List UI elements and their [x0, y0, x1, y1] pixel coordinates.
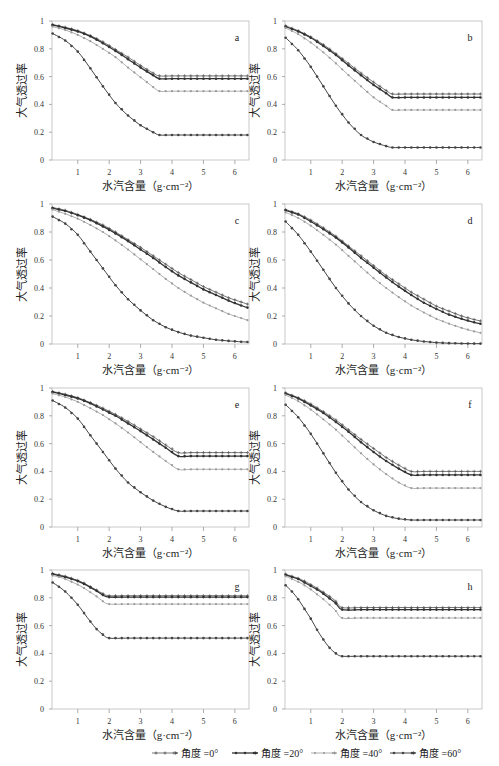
plot-frame	[285, 21, 482, 160]
data-point	[416, 109, 418, 111]
plot-frame	[285, 204, 482, 344]
x-axis-title: 水汽含量（g·cm⁻²）	[335, 179, 433, 192]
data-point	[429, 109, 431, 111]
data-point	[429, 341, 432, 344]
legend-arrow	[413, 751, 416, 755]
data-point	[83, 583, 86, 586]
data-point	[303, 57, 306, 60]
data-point	[58, 27, 60, 29]
data-point	[284, 209, 287, 212]
data-point	[328, 95, 331, 98]
series-line	[286, 393, 481, 472]
data-point	[64, 39, 67, 42]
data-point	[329, 423, 331, 425]
data-point	[96, 44, 98, 46]
data-point	[146, 252, 149, 255]
data-point	[303, 33, 306, 36]
data-point	[58, 211, 60, 213]
data-point	[404, 518, 407, 521]
data-point	[95, 76, 98, 79]
data-point	[240, 510, 243, 513]
data-point	[152, 319, 155, 322]
x-axis-title: 水汽含量（g·cm⁻²）	[102, 546, 200, 559]
data-point	[385, 617, 387, 619]
data-point	[196, 510, 199, 513]
data-point	[95, 259, 98, 262]
data-point	[202, 510, 205, 513]
data-point	[347, 255, 349, 257]
data-point	[190, 90, 192, 92]
x-tick-label: 3	[372, 717, 376, 726]
data-point	[479, 332, 481, 334]
data-point	[158, 603, 160, 605]
data-point	[435, 608, 438, 611]
data-point	[164, 637, 167, 640]
data-point	[234, 302, 237, 305]
data-point	[467, 608, 470, 611]
data-point	[291, 28, 294, 31]
data-point	[64, 590, 67, 593]
series-3	[51, 215, 248, 343]
data-point	[416, 146, 419, 149]
data-point	[102, 451, 105, 454]
y-tick-label: 0.8	[267, 594, 277, 603]
data-point	[183, 468, 185, 470]
data-point	[328, 232, 331, 235]
y-tick-label: 0	[40, 340, 44, 349]
legend-marker	[332, 752, 334, 754]
data-point	[379, 608, 382, 611]
data-point	[209, 90, 211, 92]
x-tick-label: 6	[466, 168, 470, 177]
data-point	[190, 134, 193, 137]
data-point	[372, 509, 375, 512]
data-point	[177, 637, 180, 640]
data-point	[410, 294, 413, 297]
data-point	[164, 77, 167, 80]
data-point	[165, 603, 167, 605]
data-point	[460, 96, 463, 99]
panel-letter: g	[235, 581, 240, 592]
x-tick-label: 5	[434, 168, 438, 177]
data-point	[108, 52, 110, 54]
data-point	[139, 309, 142, 312]
data-point	[102, 600, 104, 602]
data-point	[196, 468, 198, 470]
data-point	[423, 608, 426, 611]
data-point	[89, 224, 91, 226]
x-tick-label: 5	[201, 168, 205, 177]
data-point	[146, 603, 148, 605]
data-point	[208, 596, 211, 599]
data-point	[227, 340, 230, 343]
data-point	[133, 426, 136, 429]
data-point	[448, 342, 451, 345]
data-point	[208, 455, 211, 458]
data-point	[158, 261, 161, 264]
x-tick-label: 1	[309, 717, 313, 726]
series-line	[53, 394, 248, 470]
data-point	[397, 146, 400, 149]
data-point	[366, 320, 369, 323]
data-point	[64, 394, 67, 397]
series-0	[284, 391, 482, 473]
data-point	[158, 90, 160, 92]
data-point	[215, 455, 218, 458]
panel-h: 00.20.40.60.81123456水汽含量（g·cm⁻²）大气透过率h	[248, 566, 482, 741]
data-point	[410, 487, 412, 489]
data-point	[127, 240, 130, 243]
data-point	[127, 114, 130, 117]
series-0	[51, 572, 249, 597]
data-point	[309, 250, 312, 253]
data-point	[310, 588, 312, 590]
data-point	[297, 598, 300, 601]
data-point	[140, 258, 142, 260]
data-point	[133, 637, 136, 640]
data-point	[379, 455, 382, 458]
data-point	[127, 58, 130, 61]
data-point	[354, 80, 356, 82]
data-point	[89, 250, 92, 253]
data-point	[89, 67, 92, 70]
data-point	[441, 146, 444, 149]
x-tick-label: 4	[403, 717, 407, 726]
legend-item: 角度 =60°	[390, 747, 461, 759]
data-point	[152, 451, 154, 453]
